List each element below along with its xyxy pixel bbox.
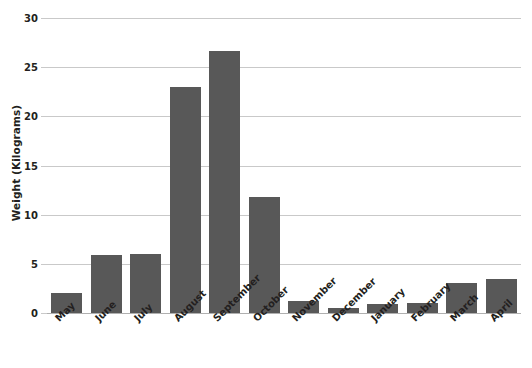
- y-tick-label: 20: [24, 111, 38, 122]
- y-tick-label: 30: [24, 13, 38, 24]
- y-tick-label: 10: [24, 209, 38, 220]
- bar-chart: Weight (Kilograms) 051015202530 MayJuneJ…: [0, 0, 532, 368]
- y-tick-mark: [41, 313, 47, 314]
- x-axis-labels: MayJuneJulyAugustSeptemberOctoberNovembe…: [47, 316, 521, 368]
- y-tick-label: 5: [31, 258, 38, 269]
- y-axis-title: Weight (Kilograms): [8, 13, 24, 313]
- y-tick-label: 25: [24, 62, 38, 73]
- bar: [170, 87, 201, 313]
- y-tick-label: 15: [24, 160, 38, 171]
- plot-area: 051015202530: [47, 18, 521, 313]
- bar: [209, 51, 240, 313]
- bars-layer: [47, 18, 521, 313]
- y-tick-label: 0: [31, 308, 38, 319]
